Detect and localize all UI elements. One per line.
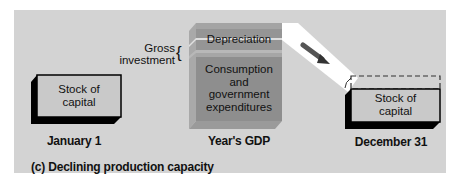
january-1-label: January 1 bbox=[34, 134, 114, 148]
consumption-section: Consumption and government expenditures bbox=[196, 63, 282, 113]
consumption-line4: expenditures bbox=[196, 101, 282, 114]
right-box-line2: capital bbox=[351, 105, 440, 118]
brace-icon: { bbox=[176, 42, 182, 64]
december-31-label: December 31 bbox=[346, 135, 436, 149]
consumption-line2: and bbox=[196, 76, 282, 89]
diagram-caption: (c) Declining production capacity bbox=[31, 160, 214, 174]
left-box-line2: capital bbox=[37, 96, 121, 109]
right-box-line1: Stock of bbox=[351, 92, 440, 105]
consumption-line1: Consumption bbox=[196, 63, 282, 76]
consumption-line3: government bbox=[196, 88, 282, 101]
years-gdp-label: Year's GDP bbox=[196, 134, 282, 148]
depreciation-label: Depreciation bbox=[196, 33, 282, 46]
gross-investment-line1: Gross bbox=[118, 42, 175, 54]
right-capital-box: Stock of capital bbox=[351, 92, 440, 117]
left-capital-box: Stock of capital bbox=[37, 83, 121, 108]
gross-investment-label: Gross investment bbox=[118, 42, 175, 66]
left-box-line1: Stock of bbox=[37, 83, 121, 96]
gross-investment-line2: investment bbox=[118, 54, 175, 66]
